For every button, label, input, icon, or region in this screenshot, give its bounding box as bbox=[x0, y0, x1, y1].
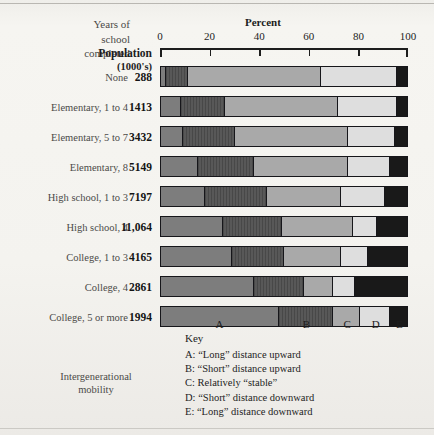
bar-row: High school, 1 to 37197 bbox=[0, 184, 434, 214]
x-axis-tick-label: 100 bbox=[400, 30, 417, 42]
x-axis-tick-label: 20 bbox=[204, 30, 215, 42]
key-entry: A: “Long” distance upward bbox=[185, 348, 314, 362]
bar-segment-c bbox=[254, 157, 347, 176]
bar-segment-d bbox=[341, 187, 385, 206]
bottom-divider bbox=[0, 428, 434, 429]
x-axis-tick bbox=[358, 48, 360, 56]
x-axis-tick bbox=[160, 48, 162, 57]
bar-segment-c bbox=[235, 127, 348, 146]
bar-segment-b bbox=[198, 157, 255, 176]
bar-segment-d bbox=[333, 277, 355, 296]
x-axis-tick-label: 0 bbox=[157, 30, 163, 42]
x-axis-line bbox=[160, 48, 408, 50]
bar-row: None288 bbox=[0, 64, 434, 94]
segment-marker-e: E bbox=[396, 318, 403, 330]
bar-segment-c bbox=[284, 247, 341, 266]
population-header-label: Population bbox=[62, 46, 152, 60]
stacked-bar bbox=[160, 126, 408, 147]
x-axis-tick-label: 60 bbox=[303, 30, 314, 42]
bar-row: Elementary, 1 to 41413 bbox=[0, 94, 434, 124]
bar-segment-e bbox=[368, 247, 407, 266]
bar-segment-c bbox=[267, 187, 341, 206]
bar-segment-e bbox=[395, 127, 407, 146]
stacked-bar bbox=[160, 246, 408, 267]
bar-segment-b bbox=[166, 67, 188, 86]
key-entries: A: “Long” distance upwardB: “Short” dist… bbox=[185, 348, 314, 419]
bar-segment-e bbox=[385, 187, 407, 206]
segment-marker-b: B bbox=[303, 318, 310, 330]
bar-segment-a bbox=[161, 247, 232, 266]
bar-segment-a bbox=[161, 187, 205, 206]
bar-row: College, 1 to 34165 bbox=[0, 244, 434, 274]
bar-row-population: 1413 bbox=[96, 101, 152, 113]
segment-marker-a: A bbox=[216, 318, 224, 330]
bar-segment-b bbox=[232, 247, 284, 266]
stacked-bar bbox=[160, 186, 408, 207]
bar-segment-e bbox=[397, 97, 407, 116]
bar-row-population: 7197 bbox=[96, 191, 152, 203]
percent-axis-title: Percent bbox=[245, 16, 281, 28]
bar-segment-b bbox=[183, 127, 235, 146]
bar-row-population: 11,064 bbox=[96, 221, 152, 233]
bar-segment-a bbox=[161, 97, 181, 116]
bar-segment-d bbox=[321, 67, 397, 86]
bar-segment-d bbox=[341, 247, 368, 266]
bar-segment-b bbox=[181, 97, 225, 116]
bar-segment-d bbox=[348, 127, 395, 146]
bar-row-population: 288 bbox=[96, 71, 152, 83]
stacked-bar bbox=[160, 66, 408, 87]
segment-marker-c: C bbox=[344, 318, 351, 330]
bar-segment-b bbox=[223, 217, 282, 236]
bar-segment-a bbox=[161, 127, 183, 146]
bar-rows: None288Elementary, 1 to 41413Elementary,… bbox=[0, 64, 434, 334]
key-entry: C: Relatively “stable” bbox=[185, 376, 314, 390]
x-axis-tick-labels: 020406080100 bbox=[0, 30, 434, 44]
bar-row-population: 4165 bbox=[96, 251, 152, 263]
stacked-bar bbox=[160, 96, 408, 117]
x-axis-tick bbox=[259, 48, 261, 56]
bar-segment-e bbox=[377, 217, 407, 236]
x-axis-tick bbox=[309, 48, 311, 56]
bar-segment-d bbox=[338, 97, 397, 116]
bar-segment-a bbox=[161, 157, 198, 176]
x-axis-tick-label: 80 bbox=[353, 30, 364, 42]
bar-segment-e bbox=[390, 157, 407, 176]
x-axis-tick-label: 40 bbox=[254, 30, 265, 42]
bar-row: Elementary, 5 to 73432 bbox=[0, 124, 434, 154]
bar-segment-a bbox=[161, 277, 254, 296]
stacked-bar bbox=[160, 216, 408, 237]
key-entry: D: “Short” distance downward bbox=[185, 391, 314, 405]
bar-segment-c bbox=[282, 217, 353, 236]
bar-row: College, 42861 bbox=[0, 274, 434, 304]
key-title: Key bbox=[185, 332, 203, 344]
stacked-bar bbox=[160, 276, 408, 297]
segment-marker-d: D bbox=[372, 318, 380, 330]
intergenerational-mobility-note-line: Intergenerational bbox=[32, 370, 160, 383]
bar-row-population: 3432 bbox=[96, 131, 152, 143]
bar-segment-c bbox=[225, 97, 338, 116]
bar-segment-c bbox=[188, 67, 321, 86]
bar-segment-e bbox=[355, 277, 407, 296]
x-axis-tick bbox=[210, 48, 212, 56]
bar-segment-b bbox=[254, 277, 303, 296]
bar-row-population: 1994 bbox=[96, 311, 152, 323]
bar-row-population: 5149 bbox=[96, 161, 152, 173]
intergenerational-mobility-note: Intergenerationalmobility bbox=[32, 370, 160, 396]
x-axis-rule bbox=[160, 48, 408, 57]
key-entry: E: “Long” distance downward bbox=[185, 405, 314, 419]
segment-letter-markers: ABCDE bbox=[160, 318, 408, 332]
bar-segment-a bbox=[161, 217, 223, 236]
top-divider bbox=[0, 3, 434, 4]
bar-row: High school, 411,064 bbox=[0, 214, 434, 244]
stacked-bar bbox=[160, 156, 408, 177]
x-axis-tick bbox=[406, 48, 408, 57]
bar-row-population: 2861 bbox=[96, 281, 152, 293]
bar-segment-b bbox=[205, 187, 267, 206]
bar-segment-e bbox=[397, 67, 407, 86]
bar-row: Elementary, 85149 bbox=[0, 154, 434, 184]
bar-segment-c bbox=[304, 277, 334, 296]
bar-segment-d bbox=[353, 217, 378, 236]
intergenerational-mobility-note-line: mobility bbox=[32, 383, 160, 396]
key-entry: B: “Short” distance upward bbox=[185, 362, 314, 376]
bar-segment-d bbox=[348, 157, 390, 176]
